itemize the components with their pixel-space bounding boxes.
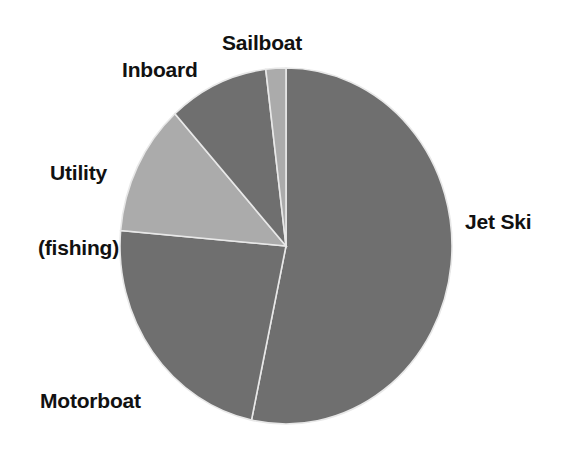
pie-label-inboard: Inboard — [122, 57, 198, 82]
pie-label-utility-line2: (fishing) — [38, 235, 119, 260]
pie-label-utility-fishing: Utility (fishing) — [38, 110, 119, 310]
pie-label-motorboat: Motorboat — [40, 388, 141, 413]
pie-slices-group — [120, 68, 452, 424]
pie-label-sailboat: Sailboat — [222, 30, 302, 55]
pie-label-jet-ski: Jet Ski — [465, 209, 531, 234]
pie-label-utility-line1: Utility — [38, 160, 119, 185]
pie-chart: Sailboat Inboard Utility (fishing) Jet S… — [0, 0, 574, 463]
